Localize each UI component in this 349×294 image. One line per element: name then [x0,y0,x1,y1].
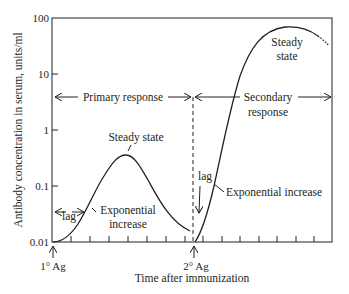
secondary-response-label-line2: response [248,106,288,119]
y-axis-ticks [52,74,58,186]
steady-state-primary-pointer [128,145,131,151]
y-tick-0.01: 0.01 [30,236,49,248]
secondary-lag-label: lag [198,170,212,183]
primary-ag-marker: 1° Ag [40,246,66,272]
secondary-ag-label: 2° Ag [183,260,209,272]
primary-exp-label-line2: increase [109,218,147,230]
secondary-lag-arrow [199,186,200,213]
y-tick-100: 100 [33,12,50,24]
y-tick-1: 1 [44,124,50,136]
primary-lag-label: lag [62,210,76,223]
secondary-response-curve [195,27,318,242]
steady-state-primary-label: Steady state [108,131,163,144]
y-tick-0.1: 0.1 [35,180,49,192]
y-tick-10: 10 [38,68,50,80]
secondary-response-label-line1: Secondary [244,91,293,104]
x-axis-title: Time after immunization [135,272,250,284]
y-axis-title: Antibody concentration in serum, units/m… [12,32,25,227]
steady-state-secondary-label-line2: state [276,50,297,62]
antibody-response-chart: 100 10 1 0.1 0.01 Antibody concentration… [0,0,349,294]
secondary-response-curve-extrapolated [318,36,329,46]
primary-exp-pointer [92,208,96,212]
primary-ag-label: 1° Ag [40,260,66,272]
steady-state-secondary-label-line1: Steady [271,36,303,49]
secondary-exp-pointer [214,184,224,192]
secondary-exp-label: Exponential increase [226,186,322,199]
primary-exp-label-line1: Exponential [100,204,156,217]
primary-response-label: Primary response [83,91,163,104]
secondary-ag-marker: 2° Ag [183,246,209,272]
